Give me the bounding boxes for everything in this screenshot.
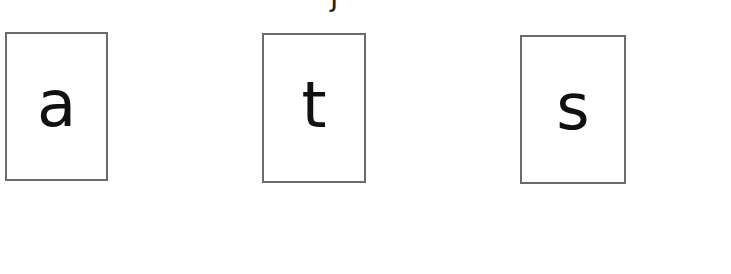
cropped-heading-text: j (330, 0, 339, 13)
card-letter: t (301, 73, 326, 137)
letter-card-t: t (262, 33, 366, 183)
letter-card-a: a (5, 32, 108, 181)
card-letter: s (556, 75, 589, 139)
card-letter: a (37, 72, 76, 136)
letter-card-s: s (520, 35, 626, 184)
